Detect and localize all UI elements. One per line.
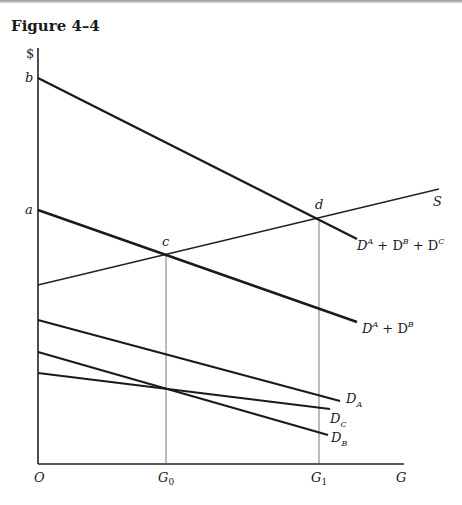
series-dc xyxy=(38,373,330,409)
chart: $ b a O G G0 G1 c d S DA + DB + DC DA + … xyxy=(0,0,462,505)
label-dc: DC xyxy=(329,411,347,429)
series-db xyxy=(38,352,328,435)
label-s: S xyxy=(433,194,442,209)
point-c: c xyxy=(162,234,170,249)
label-sum-ab: DA + DB xyxy=(361,320,414,336)
series-s xyxy=(38,189,439,285)
label-db: DB xyxy=(330,430,347,448)
label-sum-abc: DA + DB + DC xyxy=(356,237,444,253)
label-b: b xyxy=(25,70,33,85)
x-axis-label: G xyxy=(396,470,406,485)
y-axis-label: $ xyxy=(26,46,34,61)
series-da-db xyxy=(38,210,357,322)
label-a: a xyxy=(25,202,33,217)
series-da xyxy=(38,320,340,401)
label-da: DA xyxy=(345,391,362,409)
tick-g1: G1 xyxy=(311,470,327,487)
origin-label: O xyxy=(34,470,45,485)
point-d: d xyxy=(315,197,323,212)
tick-g0: G0 xyxy=(158,470,174,487)
series-da-db-dc xyxy=(38,78,357,239)
